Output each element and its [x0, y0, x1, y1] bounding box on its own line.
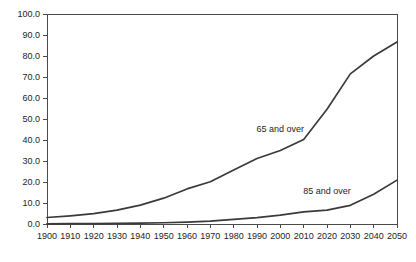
x-tick-label: 2000: [270, 231, 290, 241]
y-tick-label: 0.0: [27, 219, 40, 229]
chart-container: 0.010.020.030.040.050.060.070.080.090.01…: [0, 0, 416, 262]
y-tick-label: 80.0: [22, 51, 40, 61]
x-tick-label: 1980: [224, 231, 244, 241]
x-tick-label: 2010: [294, 231, 314, 241]
x-tick-label: 1990: [247, 231, 267, 241]
series-annotations: 65 and over85 and over: [257, 124, 351, 196]
series-annotation-1: 65 and over: [257, 124, 305, 134]
y-tick-label: 50.0: [22, 114, 40, 124]
x-tick-label: 2030: [340, 231, 360, 241]
y-tick-label: 90.0: [22, 30, 40, 40]
series-group: [47, 42, 397, 224]
x-tick-label: 1930: [107, 231, 127, 241]
line-chart: 0.010.020.030.040.050.060.070.080.090.01…: [0, 0, 416, 262]
x-tick-label: 2050: [387, 231, 407, 241]
x-tick-label: 1910: [60, 231, 80, 241]
y-tick-label: 10.0: [22, 198, 40, 208]
series-annotation-2: 85 and over: [303, 186, 351, 196]
x-tick-label: 1940: [130, 231, 150, 241]
y-tick-label: 40.0: [22, 135, 40, 145]
x-tick-label: 1920: [84, 231, 104, 241]
x-axis-ticks: 1900191019201930194019501960197019801990…: [37, 224, 407, 241]
y-tick-label: 100.0: [17, 9, 40, 19]
x-tick-label: 1900: [37, 231, 57, 241]
x-tick-label: 2040: [364, 231, 384, 241]
y-tick-label: 70.0: [22, 72, 40, 82]
x-tick-label: 2020: [317, 231, 337, 241]
y-tick-label: 60.0: [22, 93, 40, 103]
y-tick-label: 30.0: [22, 156, 40, 166]
x-tick-label: 1960: [177, 231, 197, 241]
x-tick-label: 1970: [200, 231, 220, 241]
y-axis-ticks: 0.010.020.030.040.050.060.070.080.090.01…: [17, 9, 47, 229]
x-tick-label: 1950: [154, 231, 174, 241]
y-tick-label: 20.0: [22, 177, 40, 187]
